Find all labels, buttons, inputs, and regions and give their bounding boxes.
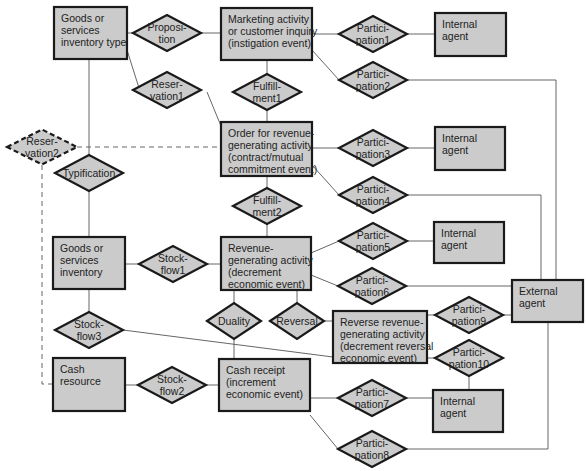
relationship-label: Partici- — [453, 303, 486, 315]
entity-label: Internal — [440, 395, 475, 407]
relationship-fulfillment1[interactable]: Fulfill-ment1 — [233, 74, 301, 110]
relationship-participation8[interactable]: Partici-pation8 — [338, 431, 406, 467]
relationship-label: Partici- — [357, 68, 390, 80]
entity-label: agent — [519, 297, 545, 309]
relationship-label: pation5 — [356, 241, 391, 253]
relationship-label: Partici- — [356, 274, 389, 286]
entity-internal2[interactable]: Internalagent — [435, 127, 505, 170]
entity-label: commitment event) — [228, 163, 317, 175]
entity-goods-type[interactable]: Goods orservicesinventory type — [54, 7, 127, 59]
entity-order[interactable]: Order for revenue-generating activity(co… — [221, 122, 317, 176]
relationship-label: Reversal — [276, 315, 317, 327]
relationship-reversal[interactable]: Reversal — [270, 303, 324, 339]
entity-label: Revenue- — [228, 242, 274, 254]
entity-label: generating activity — [228, 139, 313, 151]
relationship-label: pation7 — [355, 398, 390, 410]
relationship-label: Partici- — [453, 346, 486, 358]
entity-cash-res[interactable]: Cashresource — [53, 358, 125, 411]
connector-line — [310, 415, 338, 449]
entity-label: External — [519, 285, 558, 297]
relationship-stockflow1[interactable]: Stock-flow1 — [139, 246, 207, 282]
entity-label: agent — [442, 144, 468, 156]
relationship-typification[interactable]: Typification — [55, 155, 123, 191]
entity-label: services — [61, 24, 100, 36]
entity-label: or customer inquiry — [228, 25, 318, 37]
entity-label: (contract/mutual — [228, 151, 303, 163]
relationship-participation3[interactable]: Partici-pation3 — [339, 130, 407, 166]
entity-label: inventory — [60, 266, 103, 278]
entity-cash-rec[interactable]: Cash receipt(incrementeconomic event) — [219, 359, 310, 411]
entity-label: (decrement reversal — [340, 340, 433, 352]
entity-label: economic event) — [340, 352, 417, 364]
relationship-label: Partici- — [357, 229, 390, 241]
relationship-label: Stock- — [74, 318, 104, 330]
entity-label: Marketing activity — [228, 13, 310, 25]
relationship-participation5[interactable]: Partici-pation5 — [339, 223, 407, 259]
relationship-participation10[interactable]: Partici-pation10 — [435, 340, 503, 376]
relationship-label: flow1 — [161, 264, 186, 276]
entity-label: Internal — [442, 18, 477, 30]
relationship-label: flow3 — [77, 330, 102, 342]
connector-line — [311, 275, 338, 286]
relationship-label: ment1 — [252, 92, 281, 104]
relationship-participation9[interactable]: Partici-pation9 — [435, 297, 503, 333]
entity-label: economic event) — [226, 388, 303, 400]
relationship-label: pation4 — [356, 195, 391, 207]
relationship-reservation1[interactable]: Reser-vation1 — [133, 72, 201, 108]
relationship-label: flow2 — [160, 385, 185, 397]
relationship-label: Stock- — [157, 373, 187, 385]
relationship-label: Partici- — [357, 136, 390, 148]
relationship-label: Partici- — [356, 437, 389, 449]
relationship-label: Stock- — [158, 252, 188, 264]
relationship-participation1[interactable]: Partici-pation1 — [339, 16, 407, 52]
entity-label: generating activity — [340, 328, 425, 340]
relationship-label: Partici- — [357, 22, 390, 34]
entity-label: Order for revenue- — [228, 127, 315, 139]
relationship-label: pation8 — [355, 449, 390, 461]
entity-internal3[interactable]: Internalagent — [434, 222, 504, 263]
connector-line — [127, 50, 139, 88]
relationship-reservation2[interactable]: Reser-vation2 — [7, 130, 77, 165]
entity-label: (instigation event) — [228, 37, 311, 49]
rea-diagram: Goods orservicesinventory typeMarketing … — [0, 0, 586, 471]
entity-marketing[interactable]: Marketing activityor customer inquiry(in… — [221, 8, 318, 60]
relationship-label: pation2 — [356, 80, 391, 92]
relationship-label: vation1 — [150, 90, 184, 102]
relationship-participation2[interactable]: Partici-pation2 — [339, 62, 407, 98]
entity-label: Internal — [441, 227, 476, 239]
entity-external[interactable]: Externalagent — [512, 280, 583, 322]
entity-label: agent — [442, 30, 468, 42]
entity-label: Reverse revenue- — [340, 316, 424, 328]
connector-line — [311, 241, 339, 253]
entity-reverse[interactable]: Reverse revenue-generating activity(decr… — [333, 311, 433, 364]
relationship-participation4[interactable]: Partici-pation4 — [339, 177, 407, 213]
relationship-duality[interactable]: Duality — [207, 303, 261, 339]
relationship-label: Partici- — [356, 386, 389, 398]
entity-label: Internal — [442, 132, 477, 144]
relationship-participation6[interactable]: Partici-pation6 — [338, 268, 406, 304]
relationship-label: Fulfill- — [253, 80, 282, 92]
relationship-fulfillment2[interactable]: Fulfill-ment2 — [233, 188, 301, 224]
relationship-label: Reser- — [26, 135, 58, 147]
relationship-participation7[interactable]: Partici-pation7 — [338, 380, 406, 416]
connector-line — [207, 92, 221, 126]
relationship-label: pation10 — [449, 358, 489, 370]
entity-internal1[interactable]: Internalagent — [435, 13, 506, 56]
entity-label: services — [60, 254, 99, 266]
relationship-label: pation3 — [356, 148, 391, 160]
entity-label: Cash receipt — [226, 364, 285, 376]
entity-revenue[interactable]: Revenue-generating activity(decrementeco… — [221, 237, 313, 290]
relationship-label: pation1 — [356, 34, 391, 46]
entity-label: inventory type — [61, 36, 127, 48]
entity-goods-inv[interactable]: Goods orservicesinventory — [53, 237, 125, 289]
relationship-proposition[interactable]: Proposi-tion — [133, 15, 201, 51]
relationship-label: pation6 — [355, 286, 390, 298]
relationship-label: vation2 — [25, 147, 59, 159]
relationship-stockflow3[interactable]: Stock-flow3 — [55, 312, 123, 348]
entity-label: generating activity — [228, 254, 313, 266]
entity-internal4[interactable]: Internalagent — [433, 390, 503, 432]
connector-line — [312, 50, 339, 80]
entity-label: (decrement — [228, 266, 281, 278]
relationship-stockflow2[interactable]: Stock-flow2 — [138, 367, 206, 403]
relationship-label: Proposi- — [147, 21, 187, 33]
